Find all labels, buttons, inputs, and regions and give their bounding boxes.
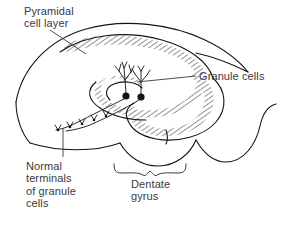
label-pyramidal-cell-layer: Pyramidal cell layer (24, 5, 74, 30)
pyramidal-cell-layer-band (63, 35, 206, 117)
label-granule-cells: Granule cells (199, 70, 265, 82)
label-normal-terminals: Normal terminals of granule cells (26, 160, 76, 210)
hippocampus-diagram: Pyramidal cell layer Granule cells Norma… (0, 0, 296, 226)
label-dentate-gyrus: Dentate gyrus (131, 178, 170, 203)
granule-neuron-left (115, 62, 134, 100)
